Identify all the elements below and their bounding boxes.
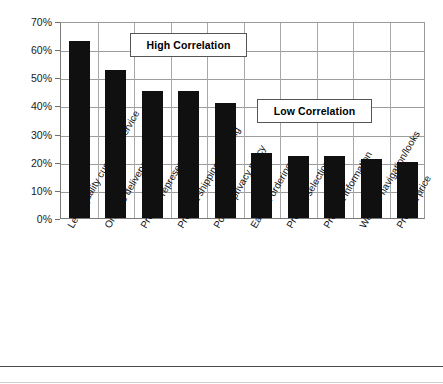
bar bbox=[105, 70, 126, 218]
y-axis-tick-label: 20% bbox=[18, 158, 52, 169]
bar-chart: 70%60%50%40%30%20%10%0% High Correlation… bbox=[0, 0, 443, 384]
bar bbox=[251, 153, 272, 218]
y-axis-tick-label: 30% bbox=[18, 130, 52, 141]
gridline-x-1 bbox=[98, 23, 99, 218]
bar bbox=[215, 103, 236, 218]
y-axis-tick-label: 10% bbox=[18, 186, 52, 197]
bar bbox=[142, 91, 163, 218]
footer-divider-secondary bbox=[0, 382, 443, 383]
gridline-x-9 bbox=[390, 23, 391, 218]
bar bbox=[324, 156, 345, 218]
bar bbox=[69, 41, 90, 218]
y-axis-tick-label: 70% bbox=[18, 17, 52, 28]
high-correlation-callout: High Correlation bbox=[130, 33, 247, 57]
high-correlation-label: High Correlation bbox=[147, 39, 231, 51]
y-axis-tick-label: 50% bbox=[18, 73, 52, 84]
bar bbox=[288, 156, 309, 218]
bar bbox=[178, 91, 199, 218]
bar bbox=[361, 159, 382, 218]
footer-divider bbox=[0, 366, 443, 367]
y-axis-tick-mark bbox=[55, 219, 60, 220]
bar bbox=[397, 162, 418, 218]
y-axis-tick-label: 60% bbox=[18, 45, 52, 56]
low-correlation-callout: Low Correlation bbox=[257, 99, 372, 123]
low-correlation-label: Low Correlation bbox=[274, 105, 355, 117]
y-axis-tick-label: 0% bbox=[18, 214, 52, 225]
y-axis-tick-label: 40% bbox=[18, 101, 52, 112]
